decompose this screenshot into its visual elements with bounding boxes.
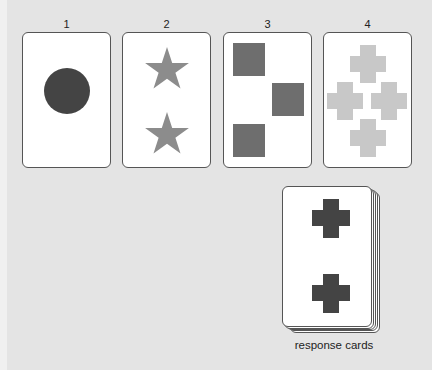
card-label-1: 1: [22, 18, 111, 30]
stimulus-card-2[interactable]: [122, 32, 211, 168]
circle-icon: [23, 33, 110, 167]
card-label-3: 3: [223, 18, 312, 30]
cross-icon: [324, 33, 411, 167]
card-label-2: 2: [122, 18, 211, 30]
stimulus-card-4[interactable]: [323, 32, 412, 168]
response-cards-caption: response cards: [284, 339, 384, 351]
square-icon: [224, 33, 311, 167]
left-edge-strip: [0, 0, 7, 370]
card-label-4: 4: [323, 18, 412, 30]
stimulus-card-1[interactable]: [22, 32, 111, 168]
star-icon: [123, 33, 210, 167]
stimulus-card-3[interactable]: [223, 32, 312, 168]
response-card-top[interactable]: [282, 186, 372, 327]
cross-icon: [283, 187, 371, 326]
